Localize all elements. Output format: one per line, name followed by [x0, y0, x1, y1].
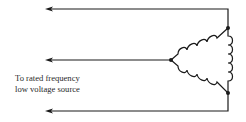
bottom-node: [226, 91, 230, 95]
top-node: [226, 26, 230, 30]
caption-line-1: To rated frequency: [15, 73, 80, 83]
top-lead: [45, 7, 228, 29]
bottom-lead: [45, 93, 228, 114]
left-node: [169, 58, 173, 62]
caption-line-2: low voltage source: [15, 84, 80, 94]
middle-lead: [45, 58, 171, 63]
right-winding: [228, 28, 233, 93]
delta-winding-diagram: [0, 0, 246, 122]
lower-left-winding: [171, 60, 228, 93]
upper-left-winding: [171, 28, 228, 60]
